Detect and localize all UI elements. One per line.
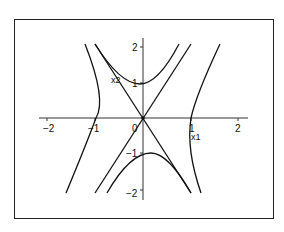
origin-point [141,116,145,120]
x-tick-label: −2 [43,123,55,134]
y-tick-label: 2 [132,42,138,53]
x-axis-label: x1 [191,132,201,142]
y-tick-label: −2 [126,188,138,199]
x-tick-label: 2 [235,123,241,134]
plot-canvas: −2 −1 0 1 2 2 1 −1 −2 x1 x2 [0,0,284,232]
